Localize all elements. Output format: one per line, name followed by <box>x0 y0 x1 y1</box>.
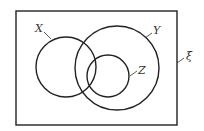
universal-set-leader <box>177 58 184 63</box>
universal-set-label: ξ <box>186 50 193 63</box>
set-x-leader <box>44 32 51 39</box>
set-z-label: Z <box>137 64 146 77</box>
set-y-circle <box>75 26 159 110</box>
set-y-leader <box>145 33 152 38</box>
set-x-circle <box>36 37 96 97</box>
set-z-leader <box>130 71 137 76</box>
set-z-circle <box>87 55 129 97</box>
venn-diagram: X Y Z ξ <box>0 0 204 131</box>
set-x-label: X <box>34 22 44 35</box>
set-y-label: Y <box>153 24 162 37</box>
